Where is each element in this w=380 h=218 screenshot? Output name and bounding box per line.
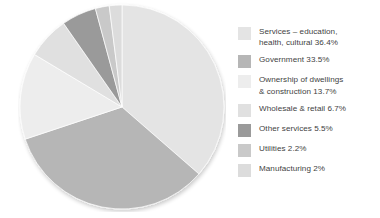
legend-swatch-icon <box>238 164 251 177</box>
legend-item-label: Ownership of dwellings & construction 13… <box>259 74 343 96</box>
legend-item-label: Other services 5.5% <box>259 123 333 134</box>
legend-item-services[interactable]: Services – education, health, cultural 3… <box>238 26 380 48</box>
legend-swatch-icon <box>238 104 251 117</box>
legend-swatch-icon <box>238 124 251 137</box>
legend-item-label: Wholesale & retail 6.7% <box>259 103 346 114</box>
legend-item-label: Services – education, health, cultural 3… <box>259 26 338 48</box>
legend-item-label: Manufacturing 2% <box>259 163 325 174</box>
chart-legend: Services – education, health, cultural 3… <box>238 26 380 183</box>
legend-item-label: Utilities 2.2% <box>259 143 306 154</box>
legend-swatch-icon <box>238 144 251 157</box>
legend-item-ownership-dwellings[interactable]: Ownership of dwellings & construction 13… <box>238 74 380 96</box>
legend-item-government[interactable]: Government 33.5% <box>238 54 380 68</box>
legend-item-wholesale-retail[interactable]: Wholesale & retail 6.7% <box>238 103 380 117</box>
legend-item-label: Government 33.5% <box>259 54 330 65</box>
legend-swatch-icon <box>238 75 251 88</box>
pie-svg <box>18 2 226 212</box>
legend-item-utilities[interactable]: Utilities 2.2% <box>238 143 380 157</box>
legend-swatch-icon <box>238 27 251 40</box>
pie-chart-figure: Services – education, health, cultural 3… <box>0 0 380 218</box>
legend-item-other-services[interactable]: Other services 5.5% <box>238 123 380 137</box>
legend-swatch-icon <box>238 55 251 68</box>
pie-chart-graphic <box>18 2 226 212</box>
legend-item-manufacturing[interactable]: Manufacturing 2% <box>238 163 380 177</box>
pie-slices-group <box>20 5 224 209</box>
